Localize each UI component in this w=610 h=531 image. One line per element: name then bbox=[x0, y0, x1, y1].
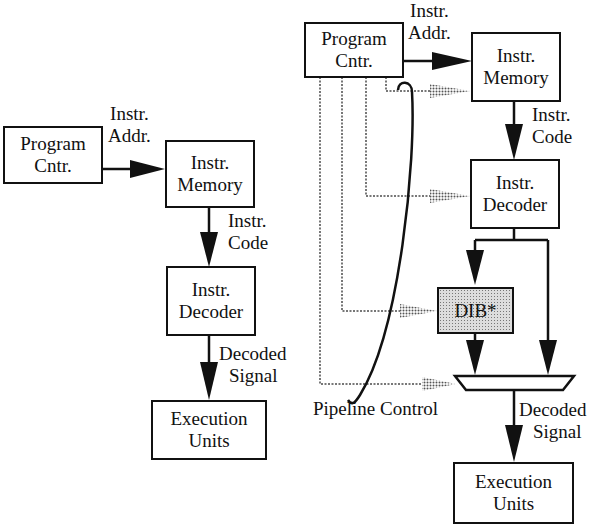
instr-addr-label-pipelined: Instr. Addr. bbox=[408, 0, 451, 44]
execution-units-box-pipelined: Execution Units bbox=[453, 462, 574, 524]
pipeline-control-label: Pipeline Control bbox=[313, 398, 438, 420]
dib-box: DIB* bbox=[437, 287, 514, 334]
instr-code-label: Instr. Code bbox=[228, 210, 268, 254]
decoded-signal-label-pipelined: Decoded Signal bbox=[519, 399, 587, 443]
multiplexer-shape bbox=[455, 376, 574, 390]
execution-units-box: Execution Units bbox=[151, 400, 267, 460]
instr-memory-box: Instr. Memory bbox=[165, 140, 255, 208]
instr-addr-label: Instr. Addr. bbox=[108, 103, 151, 147]
instr-decoder-box: Instr. Decoder bbox=[166, 266, 256, 336]
instr-decoder-box-pipelined: Instr. Decoder bbox=[470, 159, 560, 229]
program-counter-box: Program Cntr. bbox=[3, 126, 103, 184]
instr-memory-box-pipelined: Instr. Memory bbox=[471, 32, 561, 102]
label: Program bbox=[20, 133, 85, 155]
decoded-signal-label: Decoded Signal bbox=[219, 343, 287, 387]
label: Cntr. bbox=[34, 155, 71, 177]
arrow-icon bbox=[130, 160, 165, 178]
pipeline-control-curve bbox=[348, 83, 413, 403]
program-counter-box-pipelined: Program Cntr. bbox=[304, 22, 404, 78]
instr-code-label-pipelined: Instr. Code bbox=[532, 104, 572, 148]
